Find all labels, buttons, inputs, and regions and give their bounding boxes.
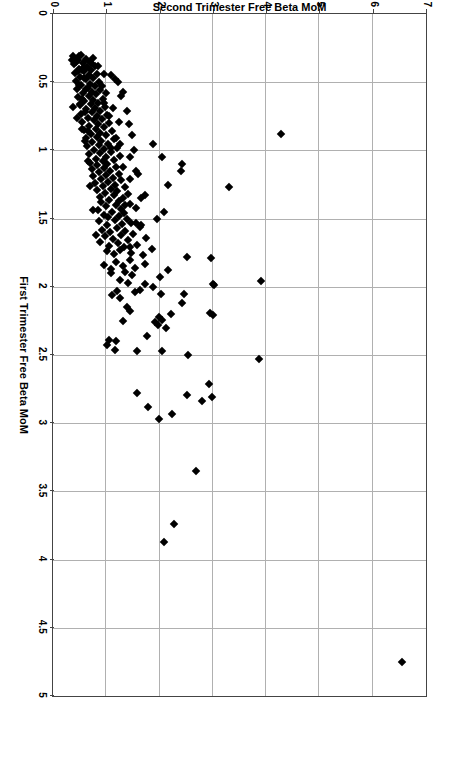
y-axis-title: Second Trimester Free Beta MoM [52,0,427,375]
x-gridline [53,491,426,492]
x-tick-mark [50,559,54,560]
x-tick-label: 2.5 [37,347,48,361]
data-point [192,467,200,475]
data-point [160,538,168,546]
x-tick-mark [50,627,54,628]
chart-page: 00.511.522.533.544.55 01234567 First Tri… [0,0,454,772]
x-tick-mark [50,422,54,423]
data-point [168,409,176,417]
x-axis-title: First Trimester Free Beta MoM [18,13,30,697]
x-tick-label: 2 [37,283,48,289]
x-tick-label: 1 [37,147,48,153]
x-tick-label: 4.5 [37,620,48,634]
x-tick-label: 0 [37,10,48,16]
x-gridline [53,628,426,629]
data-point [208,393,216,401]
data-point [170,520,178,528]
x-tick-label: 3 [37,419,48,425]
x-gridline [53,423,426,424]
x-tick-label: 0.5 [37,74,48,88]
x-tick-label: 4 [37,556,48,562]
x-gridline [53,560,426,561]
scatter-figure: 00.511.522.533.544.55 01234567 First Tri… [0,0,454,772]
data-point [144,403,152,411]
x-tick-label: 3.5 [37,483,48,497]
x-tick-label: 1.5 [37,211,48,225]
x-tick-mark [50,695,54,696]
data-point [197,397,205,405]
x-tick-mark [50,490,54,491]
data-point [398,658,406,666]
rotated-figure-wrapper: 00.511.522.533.544.55 01234567 First Tri… [0,0,454,772]
data-point [133,389,141,397]
data-point [183,390,191,398]
x-tick-label: 5 [37,692,48,698]
